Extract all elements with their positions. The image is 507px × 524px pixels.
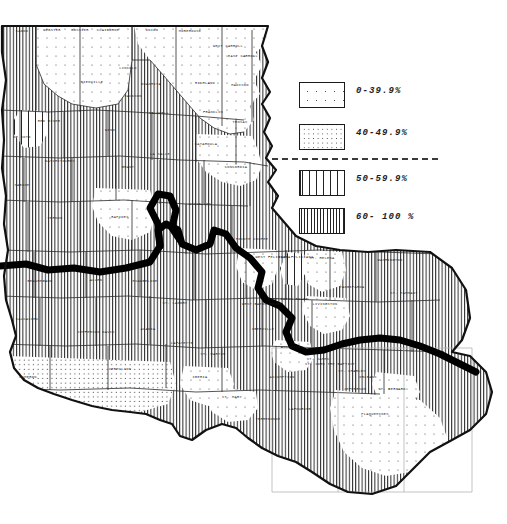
parish-label: LA SALLE bbox=[150, 152, 170, 156]
legend-label-40-49: 40-49.9% bbox=[356, 128, 408, 138]
parish-label: TENSAS bbox=[232, 120, 247, 124]
legend-swatch-60-100 bbox=[299, 208, 345, 234]
legend-label-50-59: 50-59.9% bbox=[356, 174, 408, 184]
parish-label: ORLEANS bbox=[359, 375, 377, 379]
parish-label: FRANKLIN bbox=[203, 110, 223, 114]
parish-label: RICHLAND bbox=[195, 81, 215, 85]
parish-label: MOREHOUSE bbox=[179, 29, 202, 33]
legend-row-40-49: 40-49.9% bbox=[296, 122, 456, 152]
legend-label-60-100: 60- 100 % bbox=[356, 212, 415, 222]
legend-row-60-100: 60- 100 % bbox=[296, 206, 456, 236]
parish-label: WEBSTER bbox=[43, 28, 61, 32]
parish-label: ST. MARTIN bbox=[200, 352, 225, 356]
parish-label: CALDWELL bbox=[149, 111, 169, 115]
parish-label: PLAQUEMINES bbox=[361, 412, 389, 416]
parish-label: ST. CHARLES bbox=[338, 369, 366, 373]
legend-row-0: 0-39.9% bbox=[296, 80, 456, 110]
parish-label: NATCHITOCHES bbox=[45, 159, 75, 163]
parish-label: EVANGELINE bbox=[132, 279, 157, 283]
parish-label: ACADIA bbox=[140, 327, 156, 331]
parish-label: GRANT bbox=[122, 165, 135, 169]
parish-label: AVOYELLES bbox=[189, 202, 212, 206]
parish-label: UNION bbox=[146, 28, 159, 32]
parish-label: ST. BERNARD bbox=[378, 387, 406, 391]
parish-label: RED RIVER bbox=[38, 119, 61, 123]
legend-swatch-0-39 bbox=[299, 82, 345, 108]
parish-label: CALCASIEU bbox=[16, 317, 39, 321]
parish-label: EAST CARROLL bbox=[228, 54, 258, 58]
parish-label: ST. TAMMANY bbox=[390, 291, 418, 295]
map-figure-root: CADDOWEBSTERBOSSIERCLAIBORNEUNIONMOREHOU… bbox=[0, 0, 507, 524]
parish-label: CADDO bbox=[16, 29, 29, 33]
parish-label: VERNON bbox=[47, 216, 62, 220]
parish-label: ST. MARY bbox=[222, 395, 243, 399]
parish-label: WEST CARROLL bbox=[213, 44, 243, 48]
parish-label: LIVINGSTON bbox=[312, 302, 337, 306]
parish-label: VERMILION bbox=[109, 367, 132, 371]
parish-label: TANGIPAHOA bbox=[339, 285, 365, 289]
parish-label: WINN bbox=[105, 128, 115, 132]
legend-swatch-40-49 bbox=[299, 124, 345, 150]
parish-label: ASCENSION bbox=[281, 345, 304, 349]
parish-label: LINCOLN bbox=[119, 66, 137, 70]
parish-label: JEFFERSON DAVIS bbox=[77, 330, 115, 334]
parish-label: OUACHITA bbox=[141, 82, 162, 86]
parish-label: CLAIBORNE bbox=[97, 28, 120, 32]
parish-label: WEST BATON ROUGE bbox=[242, 302, 282, 306]
legend-label-0-39: 0-39.9% bbox=[356, 86, 402, 96]
parish-label: BOSSIER bbox=[71, 28, 89, 32]
parish-label: CONCORDIA bbox=[225, 165, 248, 169]
parish-label: BEAUREGARD bbox=[27, 279, 52, 283]
parish-label: DE SOTO bbox=[13, 135, 31, 139]
parish-label: IBERIA bbox=[192, 375, 208, 379]
parish-label: TERREBONNE bbox=[255, 417, 280, 421]
parish-label: SABINE bbox=[14, 183, 29, 187]
parish-label: RAPIDES bbox=[111, 215, 129, 219]
legend-swatch-50-59 bbox=[299, 170, 345, 196]
map-svg: CADDOWEBSTERBOSSIERCLAIBORNEUNIONMOREHOU… bbox=[0, 0, 507, 524]
parish-label: ST. JOHN THE BAPTIST bbox=[305, 362, 356, 366]
parish-label: EAST BATON ROUGE bbox=[268, 297, 308, 301]
parish-label: WASHINGTON bbox=[377, 258, 402, 262]
parish-label: ST. HELENA bbox=[309, 256, 335, 260]
parish-label: LAFOURCHE bbox=[289, 407, 312, 411]
parish-label: CAMERON bbox=[19, 375, 37, 379]
legend-row-50-59: 50-59.9% bbox=[296, 168, 456, 198]
parish-label: MADISON bbox=[231, 83, 249, 87]
parish-label: JACKSON bbox=[124, 94, 142, 98]
parish-label: ST. LANDRY bbox=[162, 301, 188, 305]
parish-label: ST. JAMES bbox=[307, 357, 330, 361]
parish-label: POINTE COUPEE bbox=[236, 237, 269, 241]
parish-label: ALLEN bbox=[90, 278, 103, 282]
legend-divider bbox=[272, 158, 438, 160]
parish-label: BIENVILLE bbox=[81, 80, 104, 84]
parish-label: LAFAYETTE bbox=[171, 341, 194, 345]
parish-label: IBERVILLE bbox=[252, 327, 275, 331]
map-legend: 0-39.9% 40-49.9% 50-59.9% 60- 100 % bbox=[296, 80, 456, 232]
parish-label: JEFFERSON bbox=[344, 387, 367, 391]
parish-label: ASSUMPTION bbox=[269, 375, 294, 379]
louisiana-choropleth-map: CADDOWEBSTERBOSSIERCLAIBORNEUNIONMOREHOU… bbox=[0, 0, 507, 524]
parish-label: CATAHOULA bbox=[195, 142, 218, 146]
